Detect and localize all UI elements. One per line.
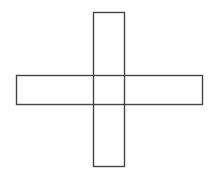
cross-diagram	[0, 0, 218, 179]
horizontal-bar	[17, 76, 203, 105]
vertical-bar	[94, 13, 125, 167]
